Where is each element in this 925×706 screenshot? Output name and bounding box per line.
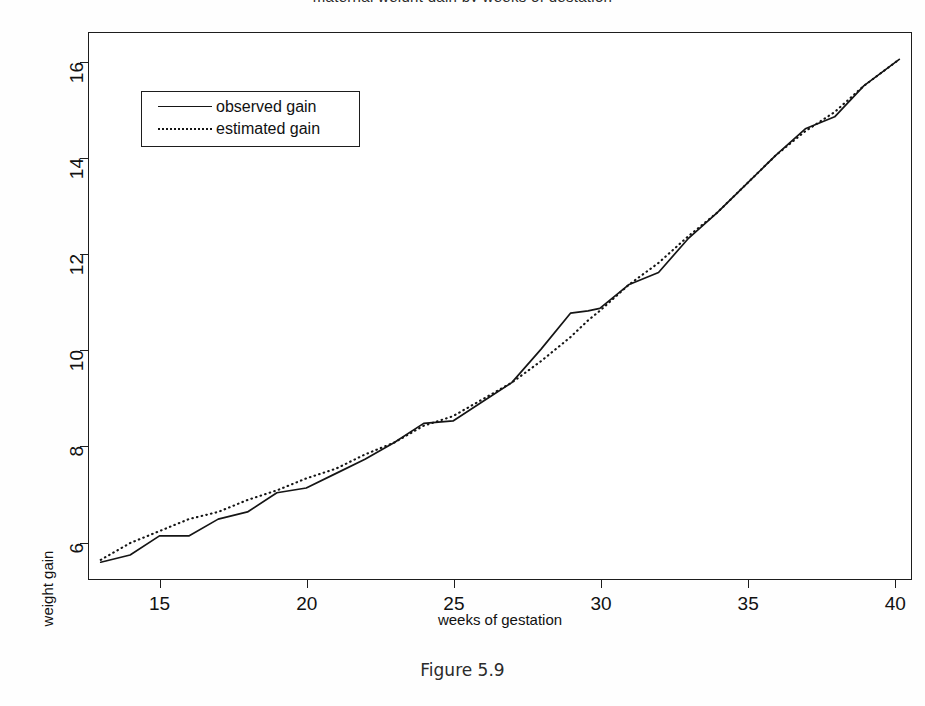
figure-root: maternal weight gain by weeks of gestati… — [0, 0, 925, 706]
legend-label-observed: observed gain — [216, 99, 317, 115]
legend-item-estimated: estimated gain — [142, 118, 359, 140]
x-axis-tick — [601, 579, 602, 588]
x-axis-tick — [895, 579, 896, 588]
legend-dotted-line-icon — [154, 122, 216, 136]
x-axis-tick — [748, 579, 749, 588]
clipped-chart-title: maternal weight gain by weeks of gestati… — [0, 0, 925, 2]
legend-solid-line-icon — [154, 100, 216, 114]
x-axis-tick — [454, 579, 455, 588]
y-axis-title: weight gain — [39, 551, 56, 627]
legend-item-observed: observed gain — [142, 96, 359, 118]
x-axis-tick — [160, 579, 161, 588]
figure-caption: Figure 5.9 — [0, 660, 925, 680]
x-axis-tick — [307, 579, 308, 588]
legend-label-estimated: estimated gain — [216, 121, 320, 137]
chart-legend: observed gain estimated gain — [141, 91, 360, 147]
x-axis-title: weeks of gestation — [88, 611, 912, 628]
